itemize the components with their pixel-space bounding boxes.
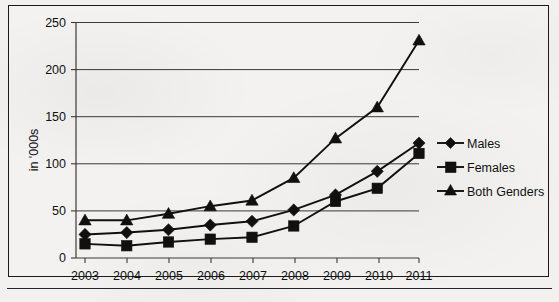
data-point-marker bbox=[204, 219, 216, 231]
x-tick-label-2003: 2003 bbox=[71, 269, 99, 283]
x-tick-label-2004: 2004 bbox=[113, 269, 141, 283]
legend-label-both-genders: Both Genders bbox=[467, 185, 544, 199]
series-both-genders bbox=[79, 34, 425, 225]
x-tick-label-2009: 2009 bbox=[323, 269, 351, 283]
data-point-marker bbox=[371, 165, 383, 177]
data-point-marker bbox=[122, 241, 132, 251]
data-point-marker bbox=[330, 196, 340, 206]
data-point-marker bbox=[413, 34, 425, 45]
x-tick-label-2005: 2005 bbox=[155, 269, 183, 283]
line-chart: 250 200 150 100 50 0 in '000s 2003 2004 … bbox=[0, 0, 559, 302]
y-tick-label-250: 250 bbox=[45, 16, 66, 30]
legend-item-males[interactable]: Males bbox=[437, 137, 500, 151]
legend-marker-triangle bbox=[445, 185, 457, 196]
data-point-marker bbox=[247, 232, 257, 242]
data-point-marker bbox=[329, 132, 341, 143]
x-tick-label-2011: 2011 bbox=[406, 269, 433, 283]
gridlines bbox=[76, 23, 419, 211]
legend-item-females[interactable]: Females bbox=[437, 161, 515, 175]
legend-label-males: Males bbox=[467, 137, 500, 151]
x-axis-ticks bbox=[85, 258, 419, 263]
x-axis-tick-labels: 2003 2004 2005 2006 2007 2008 2009 2010 … bbox=[71, 269, 432, 283]
y-tick-label-0: 0 bbox=[59, 251, 66, 265]
x-tick-label-2007: 2007 bbox=[239, 269, 267, 283]
x-tick-label-2010: 2010 bbox=[365, 269, 393, 283]
legend-marker-square bbox=[446, 162, 457, 173]
y-tick-label-100: 100 bbox=[45, 157, 66, 171]
data-point-marker bbox=[163, 237, 173, 247]
data-point-marker bbox=[246, 194, 258, 205]
y-tick-label-150: 150 bbox=[45, 110, 66, 124]
data-point-marker bbox=[289, 221, 299, 231]
data-point-marker bbox=[414, 148, 424, 158]
data-point-marker bbox=[162, 224, 174, 236]
data-point-marker bbox=[288, 204, 300, 216]
y-axis-title: in '000s bbox=[27, 129, 41, 172]
data-point-marker bbox=[413, 137, 425, 149]
data-point-marker bbox=[372, 183, 382, 193]
legend: Males Females Both Genders bbox=[437, 137, 544, 199]
data-point-marker bbox=[246, 215, 258, 227]
series-line bbox=[85, 40, 419, 220]
legend-item-both-genders[interactable]: Both Genders bbox=[437, 185, 544, 199]
data-series-layer bbox=[79, 34, 425, 251]
data-point-marker bbox=[371, 101, 383, 112]
x-tick-label-2006: 2006 bbox=[197, 269, 225, 283]
data-point-marker bbox=[80, 239, 90, 249]
y-axis-tick-labels: 250 200 150 100 50 0 bbox=[45, 16, 66, 265]
data-point-marker bbox=[205, 234, 215, 244]
x-tick-label-2008: 2008 bbox=[281, 269, 309, 283]
y-tick-label-50: 50 bbox=[52, 204, 66, 218]
legend-marker-diamond bbox=[445, 138, 456, 149]
legend-label-females: Females bbox=[467, 161, 515, 175]
y-axis-ticks bbox=[71, 23, 76, 259]
y-tick-label-200: 200 bbox=[45, 63, 66, 77]
data-point-marker bbox=[121, 226, 133, 238]
